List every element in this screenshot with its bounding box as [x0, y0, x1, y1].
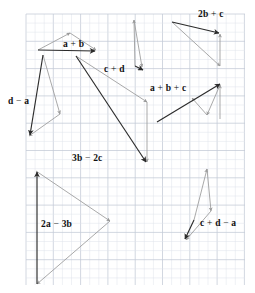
vector-diagram-page: a + bc + d2b + ca + b + cd − a3b − 2c2a …	[0, 0, 255, 293]
label-c-plus-d-minus-a: c + d − a	[200, 218, 236, 228]
label-a-plus-b-plus-c: a + b + c	[150, 83, 186, 93]
label-d-minus-a: d − a	[8, 96, 29, 106]
label-2a-minus-3b: 2a − 3b	[41, 219, 72, 229]
label-a-plus-b: a + b	[63, 39, 84, 49]
label-2b-plus-c: 2b + c	[198, 9, 224, 19]
label-c-plus-d: c + d	[104, 64, 125, 74]
vector-diagram-canvas: a + bc + d2b + ca + b + cd − a3b − 2c2a …	[0, 0, 255, 293]
label-3b-minus-2c: 3b − 2c	[72, 153, 103, 163]
